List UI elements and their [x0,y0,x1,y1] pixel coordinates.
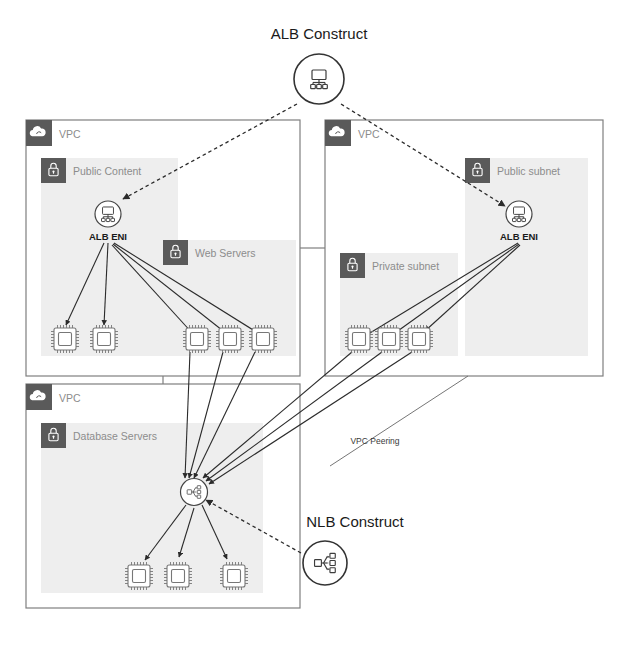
vpc-bottom-label: VPC [59,392,81,404]
ec2-database-2[interactable] [164,562,192,590]
alb-eni-right-label: ALB ENI [500,231,538,242]
ec2-private-subnet-2[interactable] [375,325,403,353]
alb-eni-left-label: ALB ENI [89,231,127,242]
alb-construct[interactable]: ALB Construct [271,25,369,104]
ec2-public-content-2[interactable] [90,325,118,353]
ec2-database-3[interactable] [220,562,248,590]
vpc-right-label: VPC [358,128,380,140]
ec2-private-subnet-3[interactable] [405,325,433,353]
subnet-label-web-servers: Web Servers [195,247,256,259]
subnet-public-subnet[interactable]: Public subnet [465,158,588,356]
vpc-left-label: VPC [59,128,81,140]
nlb-construct-label: NLB Construct [306,513,404,530]
ec2-public-content-1[interactable] [51,325,79,353]
nlb-eni[interactable] [181,479,208,506]
subnet-label-database-servers: Database Servers [73,430,157,442]
ec2-database-1[interactable] [125,562,153,590]
architecture-diagram: VPC Public Content Web Servers VPC Publi… [0,0,619,662]
vpc-peering-label: VPC Peering [350,436,399,446]
alb-construct-label: ALB Construct [271,25,369,42]
ec2-web-servers-1[interactable] [183,325,211,353]
subnet-public-content[interactable]: Public Content [41,158,178,356]
nlb-construct[interactable]: NLB Construct [303,513,405,585]
subnet-label-private-subnet: Private subnet [372,260,439,272]
ec2-web-servers-2[interactable] [216,325,244,353]
ec2-private-subnet-1[interactable] [345,325,373,353]
vpc-peering-edge: VPC Peering [330,376,468,466]
subnet-label-public-content: Public Content [73,165,141,177]
subnet-label-public-subnet: Public subnet [497,165,560,177]
ec2-web-servers-3[interactable] [249,325,277,353]
